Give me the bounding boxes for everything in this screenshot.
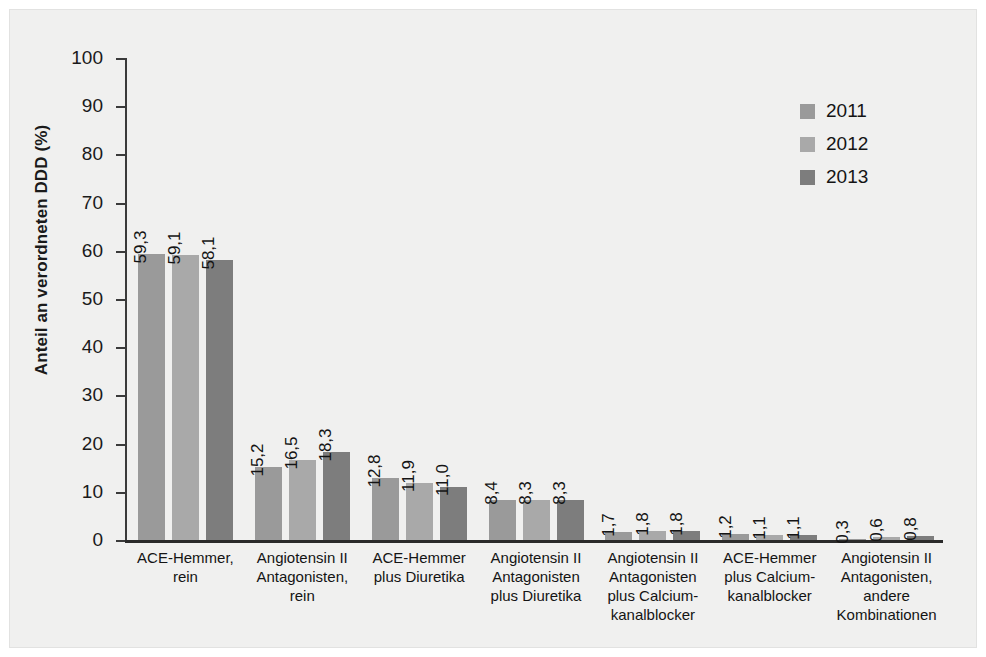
legend-item-2013[interactable]: 2013 <box>800 166 868 188</box>
y-tick: 30 <box>116 395 125 397</box>
bar-container: 11,9 <box>406 58 433 540</box>
y-tick: 60 <box>116 251 125 253</box>
y-tick-label: 20 <box>82 432 103 454</box>
legend-swatch-icon <box>800 104 815 119</box>
legend-item-2012[interactable]: 2012 <box>800 133 868 155</box>
x-axis-label-line: andere <box>831 586 942 605</box>
bar-value-label: 58,1 <box>199 236 219 269</box>
y-tick-label: 40 <box>82 336 103 358</box>
y-tick: 50 <box>116 299 125 301</box>
legend-label: 2013 <box>826 166 868 188</box>
bar-container: 18,3 <box>323 58 350 540</box>
bar-value-label: 12,8 <box>365 455 385 488</box>
y-tick: 90 <box>116 106 125 108</box>
bar-value-label: 1,1 <box>784 516 804 540</box>
x-axis-label-line: Antagonisten <box>597 567 708 586</box>
bar[interactable] <box>523 500 550 540</box>
x-axis-label-line: Antagonisten, <box>247 567 358 586</box>
x-axis-label: Angiotensin IIAntagonisten,rein <box>244 548 361 624</box>
x-axis-label-line: Antagonisten, <box>831 567 942 586</box>
x-axis-label-line: plus Diuretika <box>481 586 592 605</box>
chart-legend: 201120122013 <box>800 100 868 188</box>
y-axis-title: Anteil an verordneten DDD (%) <box>32 100 52 400</box>
bar-container: 16,5 <box>289 58 316 540</box>
x-axis-label-line: Angiotensin II <box>597 548 708 567</box>
bar-container: 15,2 <box>255 58 282 540</box>
x-axis-label-line: kanalblocker <box>714 586 825 605</box>
x-axis-label: Angiotensin IIAntagonistenplus Diuretika <box>478 548 595 624</box>
bar-value-label: 18,3 <box>316 428 336 461</box>
bar-value-label: 1,2 <box>716 515 736 539</box>
bar-container: 1,7 <box>605 58 632 540</box>
x-axis-label: ACE-Hemmerplus Diuretika <box>361 548 478 624</box>
bar-value-label: 8,3 <box>516 481 536 505</box>
x-axis-label-line: ACE-Hemmer <box>364 548 475 567</box>
y-tick-label: 30 <box>82 384 103 406</box>
x-axis-label-line: Angiotensin II <box>481 548 592 567</box>
bar[interactable] <box>289 460 316 540</box>
bar-value-label: 11,0 <box>433 464 453 496</box>
chart-figure: Anteil an verordneten DDD (%) 1009080706… <box>0 0 986 657</box>
x-axis-label-line: ACE-Hemmer <box>714 548 825 567</box>
bar[interactable] <box>557 500 584 540</box>
y-tick: 80 <box>116 154 125 156</box>
bar-value-label: 1,7 <box>599 513 619 537</box>
bar-value-label: 11,9 <box>399 460 419 492</box>
x-axis-label-line: Angiotensin II <box>831 548 942 567</box>
legend-item-2011[interactable]: 2011 <box>800 100 868 122</box>
bar-container: 12,8 <box>372 58 399 540</box>
bar-container: 8,3 <box>557 58 584 540</box>
bar-container: 1,1 <box>756 58 783 540</box>
x-axis-label-line: plus Calcium- <box>714 567 825 586</box>
bar-group: 12,811,911,0 <box>361 58 478 542</box>
x-axis-label: ACE-Hemmer,rein <box>127 548 244 624</box>
bar-container: 59,1 <box>172 58 199 540</box>
legend-swatch-icon <box>800 170 815 185</box>
y-tick-label: 90 <box>82 95 103 117</box>
x-axis-label-line: Antagonisten <box>481 567 592 586</box>
legend-label: 2011 <box>826 100 867 122</box>
y-tick-label: 10 <box>82 480 103 502</box>
bar-container: 1,2 <box>722 58 749 540</box>
bar[interactable] <box>489 500 516 540</box>
bar-value-label: 1,8 <box>633 513 653 537</box>
chart-panel: Anteil an verordneten DDD (%) 1009080706… <box>9 9 977 648</box>
bar-value-label: 59,1 <box>165 232 185 265</box>
legend-swatch-icon <box>800 137 815 152</box>
bar-container: 11,0 <box>440 58 467 540</box>
bar-group-bars: 1,71,81,8 <box>594 58 711 540</box>
bar[interactable] <box>323 452 350 540</box>
y-tick: 10 <box>116 492 125 494</box>
x-axis-label-line: plus Diuretika <box>364 567 475 586</box>
bar-value-label: 0,8 <box>901 517 921 541</box>
bar-container: 0,8 <box>907 58 934 540</box>
bar[interactable] <box>172 255 199 540</box>
bar-container: 58,1 <box>206 58 233 540</box>
bar-group: 59,359,158,1 <box>127 58 244 542</box>
bar-container: 59,3 <box>138 58 165 540</box>
y-tick: 40 <box>116 347 125 349</box>
bar-value-label: 0,3 <box>833 520 853 544</box>
bar-group-bars: 59,359,158,1 <box>127 58 244 540</box>
bar[interactable] <box>372 478 399 540</box>
y-tick: 100 <box>116 58 125 60</box>
bar-value-label: 59,3 <box>131 231 151 264</box>
bar-group-bars: 12,811,911,0 <box>361 58 478 540</box>
x-axis-label-line: plus Calcium- <box>597 586 708 605</box>
bar-container: 8,3 <box>523 58 550 540</box>
bar-group-bars: 15,216,518,3 <box>244 58 361 540</box>
y-tick: 20 <box>116 444 125 446</box>
bar-value-label: 8,4 <box>482 481 502 505</box>
bar-group: 1,71,81,8 <box>594 58 711 542</box>
bar-container: 1,8 <box>639 58 666 540</box>
bar-value-label: 1,1 <box>750 516 770 540</box>
bar[interactable] <box>206 260 233 540</box>
bar-container: 0,6 <box>873 58 900 540</box>
bar-group: 15,216,518,3 <box>244 58 361 542</box>
y-tick-label: 70 <box>82 191 103 213</box>
x-axis-label-line: kanalblocker <box>597 605 708 624</box>
y-tick-label: 50 <box>82 288 103 310</box>
bar-group: 8,48,38,3 <box>478 58 595 542</box>
bar[interactable] <box>138 254 165 540</box>
bar[interactable] <box>255 467 282 540</box>
